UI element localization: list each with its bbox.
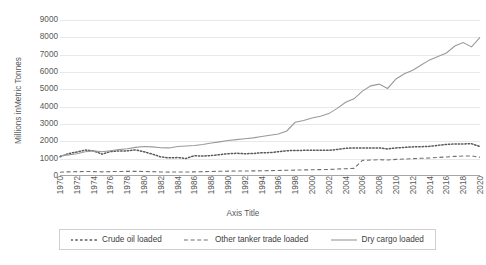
- x-tick-label: 1972: [74, 176, 82, 194]
- x-tick-label: 1984: [175, 176, 183, 194]
- x-tick-label: 2014: [427, 176, 435, 194]
- y-tick-label: 4000: [18, 103, 58, 111]
- x-tick-label: 1982: [158, 176, 166, 194]
- x-tick-label: 1994: [259, 176, 267, 194]
- x-tick-label: 1996: [275, 176, 283, 194]
- legend-swatch-dashed-icon: [184, 236, 210, 244]
- x-axis-title: Axis Title: [0, 209, 486, 218]
- chart-legend: Crude oil loadedOther tanker trade loade…: [59, 229, 436, 250]
- x-tick-label: 1976: [107, 176, 115, 194]
- series-container: [60, 20, 480, 176]
- legend-item[interactable]: Other tanker trade loaded: [184, 235, 308, 244]
- x-tick-label: 2018: [460, 176, 468, 194]
- x-tick-label: 1988: [208, 176, 216, 194]
- x-tick-label: 1970: [57, 176, 65, 194]
- x-tick-label: 2002: [326, 176, 334, 194]
- legend-label: Other tanker trade loaded: [215, 235, 308, 244]
- line-chart: Millions inMetric Tonnes 010002000300040…: [0, 0, 486, 265]
- legend-item[interactable]: Crude oil loaded: [71, 235, 162, 244]
- x-tick-label: 1992: [242, 176, 250, 194]
- y-tick-label: 0: [18, 172, 58, 180]
- series-line: [60, 144, 480, 159]
- x-tick-label: 2020: [477, 176, 485, 194]
- x-tick-label: 2000: [309, 176, 317, 194]
- x-tick-label: 2008: [376, 176, 384, 194]
- y-tick-label: 8000: [18, 33, 58, 41]
- y-tick-label: 3000: [18, 120, 58, 128]
- legend-label: Crude oil loaded: [102, 235, 162, 244]
- legend-swatch-solid-icon: [331, 236, 357, 244]
- x-tick-label: 2016: [443, 176, 451, 194]
- x-tick-label: 2010: [393, 176, 401, 194]
- y-tick-label: 7000: [18, 51, 58, 59]
- x-tick-label: 1990: [225, 176, 233, 194]
- plot-area: [60, 20, 480, 176]
- y-tick-label: 9000: [18, 16, 58, 24]
- legend-label: Dry cargo loaded: [362, 235, 424, 244]
- x-tick-label: 1974: [91, 176, 99, 194]
- y-axis-tick-labels: 0100020003000400050006000700080009000: [18, 0, 58, 265]
- y-tick-label: 5000: [18, 85, 58, 93]
- x-tick-label: 1998: [292, 176, 300, 194]
- x-tick-label: 1986: [191, 176, 199, 194]
- x-tick-label: 1978: [124, 176, 132, 194]
- x-axis-tick-labels: 1970197219741976197819801982198419861988…: [60, 176, 480, 208]
- legend-swatch-dotted-icon: [71, 236, 97, 244]
- series-line: [60, 156, 480, 172]
- legend-item[interactable]: Dry cargo loaded: [331, 235, 424, 244]
- x-tick-label: 2004: [343, 176, 351, 194]
- x-tick-label: 1980: [141, 176, 149, 194]
- series-line: [60, 37, 480, 156]
- y-tick-label: 6000: [18, 68, 58, 76]
- y-tick-label: 1000: [18, 155, 58, 163]
- x-tick-label: 2006: [359, 176, 367, 194]
- x-tick-label: 2012: [410, 176, 418, 194]
- y-tick-label: 2000: [18, 137, 58, 145]
